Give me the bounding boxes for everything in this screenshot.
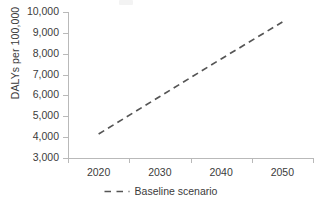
- x-axis-tick: [252, 158, 253, 163]
- y-axis-tick: [63, 75, 68, 76]
- y-axis-tick-label: 7,000: [0, 68, 59, 80]
- y-axis-tick: [63, 12, 68, 13]
- series-line-baseline-scenario: [99, 22, 283, 134]
- y-axis-tick-label: 10,000: [0, 5, 59, 17]
- y-axis-tick-label: 3,000: [0, 151, 59, 163]
- chart-legend: Baseline scenario: [0, 185, 321, 197]
- y-axis-tick: [63, 137, 68, 138]
- x-axis-tick: [313, 158, 314, 163]
- x-axis-tick-label: 2020: [69, 166, 129, 178]
- y-axis-tick-label: 5,000: [0, 109, 59, 121]
- y-axis-tick: [63, 116, 68, 117]
- x-axis-tick: [191, 158, 192, 163]
- x-axis-tick-label: 2030: [130, 166, 190, 178]
- dashed-line-marker-icon: [104, 187, 130, 196]
- y-axis-tick-label: 8,000: [0, 47, 59, 59]
- y-axis-tick: [63, 95, 68, 96]
- clipped-title-artifact: [119, 0, 133, 5]
- legend-item-baseline-scenario[interactable]: Baseline scenario: [104, 185, 218, 197]
- x-axis-tick-label: 2050: [252, 166, 312, 178]
- y-axis-tick-label: 9,000: [0, 26, 59, 38]
- y-axis-title: DALYs per 100,000: [9, 0, 21, 123]
- legend-label-baseline-scenario: Baseline scenario: [135, 185, 218, 197]
- y-axis-line: [68, 12, 69, 159]
- y-axis-tick-label: 6,000: [0, 88, 59, 100]
- y-axis-tick: [63, 33, 68, 34]
- x-axis-tick: [68, 158, 69, 163]
- chart-figure: DALYs per 100,000 10,0009,0008,0007,0006…: [0, 0, 321, 208]
- y-axis-tick: [63, 54, 68, 55]
- x-axis-tick: [129, 158, 130, 163]
- y-axis-tick-label: 4,000: [0, 130, 59, 142]
- x-axis-tick-label: 2040: [191, 166, 251, 178]
